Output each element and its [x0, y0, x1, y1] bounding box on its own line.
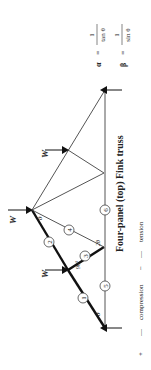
legend-compression-label: compression	[137, 284, 145, 320]
svg-text:β: β	[119, 63, 128, 67]
angle-two-theta: 2θ	[95, 240, 101, 246]
angle-right: 90°	[75, 260, 81, 269]
load-arrowhead-3	[62, 146, 69, 154]
member-label-5: 5	[100, 281, 110, 291]
svg-text:4: 4	[66, 228, 74, 232]
fink-truss-diagram: W W W 1 2 3 4 5 6 θ θ 90°	[0, 0, 151, 370]
svg-text:6: 6	[102, 208, 110, 212]
member-label-3: 3	[80, 251, 90, 261]
load-label-1: W	[40, 269, 50, 278]
right-web-2	[68, 150, 104, 173]
legend-compression-dash: —	[137, 328, 145, 337]
svg-text:=: =	[94, 50, 103, 55]
member-label-6: 6	[100, 205, 110, 215]
member-label-4: 4	[64, 225, 74, 235]
legend-compression-symbol: +	[137, 352, 145, 356]
formula-beta: β = 1 sin θ	[113, 24, 132, 67]
member-label-1: 1	[78, 293, 88, 303]
angle-theta-apex: θ	[36, 216, 44, 220]
legend-tension-label: tension	[137, 221, 145, 242]
svg-text:=: =	[119, 50, 128, 55]
svg-text:1: 1	[88, 33, 96, 37]
svg-text:1: 1	[80, 296, 88, 300]
svg-text:2: 2	[46, 240, 54, 244]
svg-text:tan θ: tan θ	[99, 28, 107, 42]
legend-tension-symbol: −	[137, 266, 145, 270]
svg-text:α: α	[94, 62, 103, 67]
svg-text:3: 3	[82, 254, 90, 258]
load-arrowhead-2	[26, 206, 33, 214]
angle-theta-support: θ	[94, 312, 102, 316]
legend-tension-dash: —	[137, 250, 145, 259]
member-label-2: 2	[44, 237, 54, 247]
svg-text:sin θ: sin θ	[124, 28, 132, 42]
legend: + — compression − — tension	[137, 221, 145, 356]
formula-alpha: α = 1 tan θ	[88, 24, 107, 67]
svg-text:5: 5	[102, 284, 110, 288]
svg-text:1: 1	[113, 33, 121, 37]
diagram-title: Four-panel (top) Fink truss	[114, 135, 126, 252]
load-label-2: W	[8, 215, 18, 224]
load-label-3: W	[40, 149, 50, 158]
